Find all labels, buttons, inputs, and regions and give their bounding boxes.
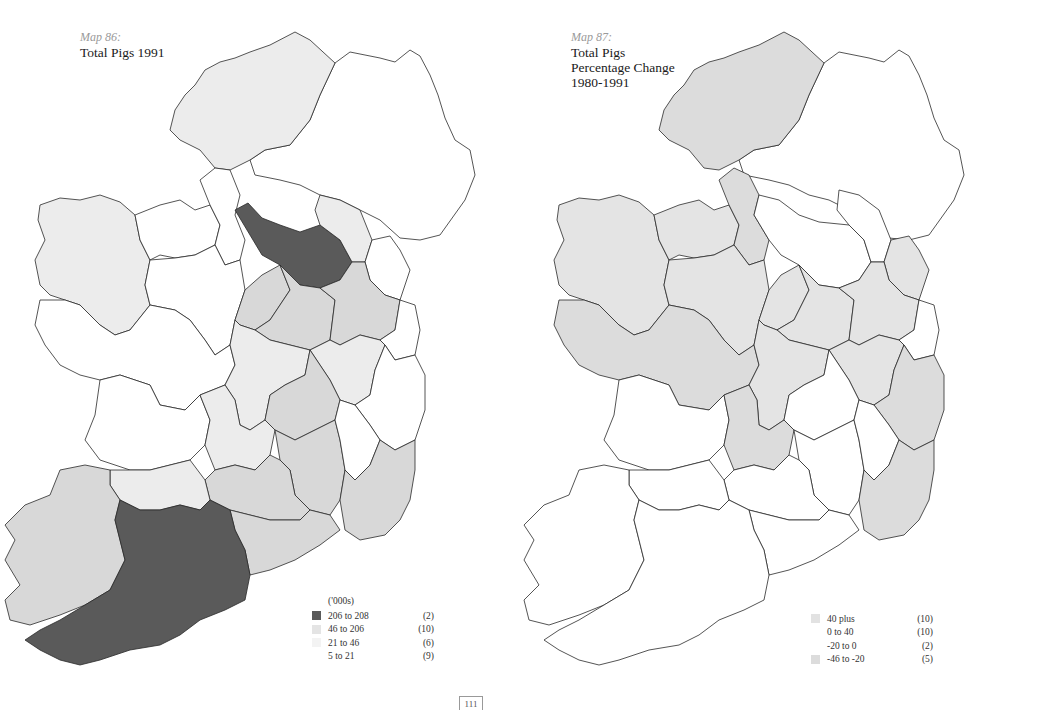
legend-count: (2)	[398, 611, 434, 621]
legend-swatch-0-to-40	[811, 628, 820, 637]
legend-row: 206 to 208 (2)	[312, 609, 434, 623]
map-87-legend: 40 plus (10) 0 to 40 (10) -20 to 0 (2) -…	[811, 612, 933, 666]
legend-swatch-dark	[312, 611, 321, 620]
legend-label: 0 to 40	[827, 627, 897, 637]
legend-count: (2)	[897, 641, 933, 651]
legend-count: (10)	[897, 614, 933, 624]
legend-swatch-light	[312, 638, 321, 647]
legend-row: 5 to 21 (9)	[312, 650, 434, 664]
legend-label: -20 to 0	[827, 641, 897, 651]
legend-row: 0 to 40 (10)	[811, 626, 933, 640]
legend-label: 21 to 46	[328, 638, 398, 648]
map-87-ireland	[519, 0, 1038, 710]
legend-swatch-mid	[312, 625, 321, 634]
legend-label: 46 to 206	[328, 624, 398, 634]
legend-row: -46 to -20 (5)	[811, 653, 933, 667]
legend-row: 46 to 206 (10)	[312, 623, 434, 637]
legend-units: ('000s)	[312, 596, 434, 606]
legend-label: 40 plus	[827, 614, 897, 624]
legend-count: (6)	[398, 638, 434, 648]
page-number: 111	[459, 696, 483, 710]
legend-count: (5)	[897, 654, 933, 664]
legend-swatch-neg20-to-0	[811, 641, 820, 650]
legend-count: (9)	[398, 651, 434, 661]
legend-label: -46 to -20	[827, 654, 897, 664]
page-left-map-86: Map 86: Total Pigs 1991	[0, 0, 519, 710]
legend-swatch-neg46-to-neg20	[811, 655, 820, 664]
legend-count: (10)	[398, 624, 434, 634]
map-86-ireland	[0, 0, 519, 710]
legend-label: 5 to 21	[328, 651, 398, 661]
page-right-map-87: Map 87: Total Pigs Percentage Change 198…	[519, 0, 1038, 710]
legend-row: 40 plus (10)	[811, 612, 933, 626]
legend-count: (10)	[897, 627, 933, 637]
legend-row: -20 to 0 (2)	[811, 639, 933, 653]
legend-swatch-white	[312, 652, 321, 661]
legend-row: 21 to 46 (6)	[312, 636, 434, 650]
legend-label: 206 to 208	[328, 611, 398, 621]
map-86-legend: ('000s) 206 to 208 (2) 46 to 206 (10) 21…	[312, 596, 434, 663]
legend-swatch-40-plus	[811, 614, 820, 623]
